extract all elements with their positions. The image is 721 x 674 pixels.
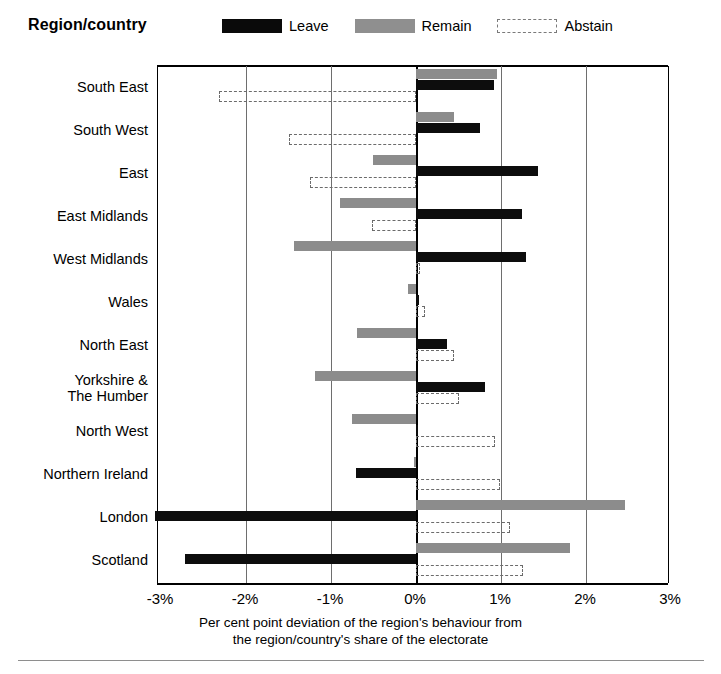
x-tick-label: -1%	[317, 590, 344, 607]
y-axis-label-yorkshire-the-humber: Yorkshire &The Humber	[5, 372, 157, 404]
bar-remain	[416, 69, 497, 79]
y-axis-label-south-west: South West	[5, 122, 157, 138]
bar-abstain	[416, 306, 425, 317]
bar-abstain	[289, 134, 416, 145]
y-axis-label-northern-ireland: Northern Ireland	[5, 466, 157, 482]
y-axis-label-wales: Wales	[5, 294, 157, 310]
chart-row	[158, 66, 668, 109]
x-axis-caption: Per cent point deviation of the region's…	[0, 614, 721, 648]
chart-legend: Leave Remain Abstain	[222, 18, 639, 34]
y-axis-label-north-west: North West	[5, 423, 157, 439]
chart-row	[158, 109, 668, 152]
y-axis-category-labels: South EastSouth WestEastEast MidlandsWes…	[0, 66, 157, 583]
bar-abstain	[416, 436, 495, 447]
y-axis-label-london: London	[5, 509, 157, 525]
legend-swatch-abstain-icon	[497, 19, 557, 33]
bar-remain	[408, 284, 417, 294]
x-axis-caption-line1: Per cent point deviation of the region's…	[0, 614, 721, 631]
bar-remain	[416, 500, 625, 510]
bar-leave	[416, 166, 538, 176]
y-axis-label-north-east: North East	[5, 337, 157, 353]
legend-label-leave: Leave	[289, 18, 329, 34]
chart-row	[158, 195, 668, 238]
chart-row	[158, 540, 668, 583]
legend-label-abstain: Abstain	[564, 18, 612, 34]
bar-leave	[416, 295, 419, 305]
bar-abstain	[372, 220, 416, 231]
y-axis-label-south-east: South East	[5, 79, 157, 95]
chart-row	[158, 368, 668, 411]
bar-remain	[373, 155, 416, 165]
bar-leave	[416, 382, 485, 392]
y-axis-label-scotland: Scotland	[5, 552, 157, 568]
x-tick-label: 2%	[574, 590, 596, 607]
bar-abstain	[416, 565, 523, 576]
chart-row	[158, 454, 668, 497]
bar-abstain	[310, 177, 416, 188]
bar-abstain	[416, 350, 454, 361]
plot-bottom-border	[157, 583, 668, 585]
y-axis-label-east-midlands: East Midlands	[5, 208, 157, 224]
bar-leave	[416, 339, 447, 349]
bar-abstain	[416, 522, 510, 533]
plot-area	[157, 66, 669, 583]
bar-leave	[416, 425, 418, 435]
bar-abstain	[416, 263, 420, 274]
chart-row	[158, 497, 668, 540]
chart-row	[158, 325, 668, 368]
bar-leave	[416, 252, 526, 262]
y-axis-label-west-midlands: West Midlands	[5, 251, 157, 267]
footer-divider	[18, 660, 704, 661]
bar-leave	[416, 123, 480, 133]
chart-row	[158, 281, 668, 324]
bar-abstain	[416, 479, 500, 490]
bar-remain	[414, 457, 416, 467]
bar-leave	[416, 209, 522, 219]
legend-item-leave: Leave	[222, 18, 329, 34]
page-title: Region/country	[28, 16, 147, 34]
bar-leave	[356, 468, 416, 478]
chart-row	[158, 411, 668, 454]
x-tick-label: 1%	[489, 590, 511, 607]
bar-abstain	[219, 91, 416, 102]
bar-leave	[185, 554, 416, 564]
bar-abstain	[416, 393, 459, 404]
x-axis-caption-line2: the region/country's share of the electo…	[0, 631, 721, 648]
region-deviation-bar-chart: Region/country Leave Remain Abstain Sout…	[0, 0, 721, 674]
chart-row	[158, 238, 668, 281]
legend-item-remain: Remain	[355, 18, 472, 34]
x-tick-label: 3%	[659, 590, 681, 607]
x-tick-label: -2%	[232, 590, 259, 607]
bar-remain	[315, 371, 416, 381]
bar-remain	[294, 241, 416, 251]
legend-label-remain: Remain	[422, 18, 472, 34]
legend-swatch-remain-icon	[355, 19, 415, 33]
x-tick-label: 0%	[404, 590, 426, 607]
bar-remain	[416, 112, 454, 122]
bar-remain	[352, 414, 416, 424]
y-axis-label-east: East	[5, 165, 157, 181]
chart-row	[158, 152, 668, 195]
bar-remain	[340, 198, 416, 208]
legend-swatch-leave-icon	[222, 19, 282, 33]
x-tick-label: -3%	[147, 590, 174, 607]
bar-leave	[416, 80, 494, 90]
bar-leave	[155, 511, 416, 521]
x-axis-tick-labels: -3%-2%-1%0%1%2%3%	[0, 590, 721, 612]
bar-remain	[357, 328, 416, 338]
legend-item-abstain: Abstain	[497, 18, 612, 34]
bar-remain	[416, 543, 570, 553]
